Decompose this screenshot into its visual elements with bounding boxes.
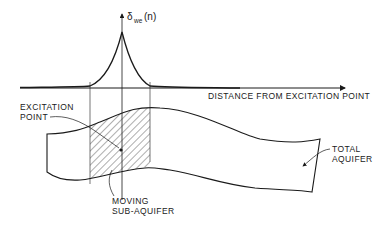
total-aquifer-label-2: AQUIFER — [332, 154, 373, 164]
aquifer-diagram: δ we (n) DISTANCE FROM EXCITATION POINT … — [0, 0, 389, 227]
total-aquifer-label-1: TOTAL — [332, 144, 361, 154]
aquifer-band-outline — [47, 108, 320, 192]
y-axis-argument: (n) — [144, 11, 156, 22]
excitation-point-dot — [119, 148, 122, 151]
excitation-point-label-1: EXCITATION — [20, 102, 74, 112]
response-curve — [20, 32, 240, 88]
y-axis-symbol: δ — [127, 11, 133, 22]
moving-sub-aquifer-annotation: MOVING SUB-AQUIFER — [109, 170, 174, 216]
moving-sub-aquifer-label-2: SUB-AQUIFER — [112, 206, 175, 216]
total-aquifer — [47, 108, 320, 192]
x-axis-label: DISTANCE FROM EXCITATION POINT — [208, 91, 370, 101]
total-aquifer-annotation: TOTAL AQUIFER — [303, 144, 373, 166]
excitation-point-label-2: POINT — [20, 112, 48, 122]
y-axis-subscript: we — [133, 17, 143, 24]
moving-sub-aquifer-label-1: MOVING — [112, 196, 149, 206]
